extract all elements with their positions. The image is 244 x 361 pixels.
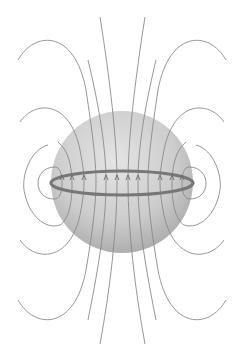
magnetic-field-diagram [0,0,244,361]
